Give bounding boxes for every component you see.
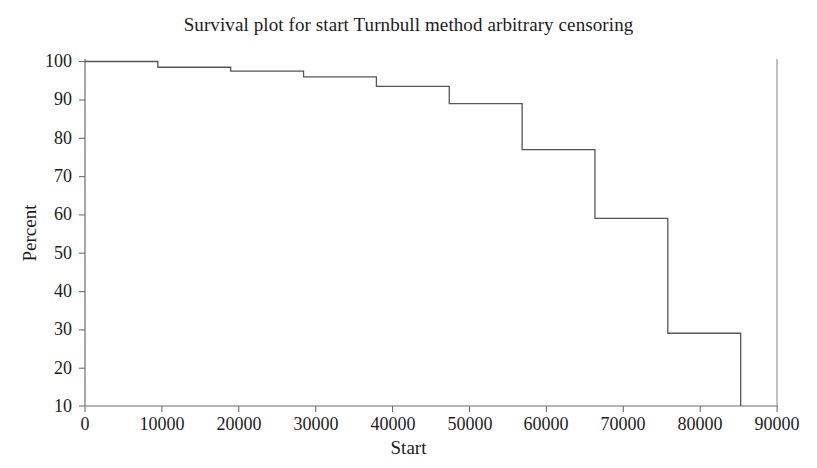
y-tick-label-90: 90 xyxy=(26,89,72,110)
y-tick-label-100: 100 xyxy=(26,51,72,72)
y-tick-label-80: 80 xyxy=(26,128,72,149)
x-axis-title: Start xyxy=(0,437,817,459)
y-tick-label-20: 20 xyxy=(26,358,72,379)
y-tick-label-30: 30 xyxy=(26,319,72,340)
plot-canvas xyxy=(0,0,817,468)
x-tick-label-90000: 90000 xyxy=(732,414,817,435)
x-axis-ticks xyxy=(85,406,777,412)
survival-step-curve xyxy=(85,62,741,407)
survival-plot-figure: Survival plot for start Turnbull method … xyxy=(0,0,817,468)
y-axis-ticks xyxy=(79,62,85,407)
y-axis-title: Percent xyxy=(19,173,41,293)
